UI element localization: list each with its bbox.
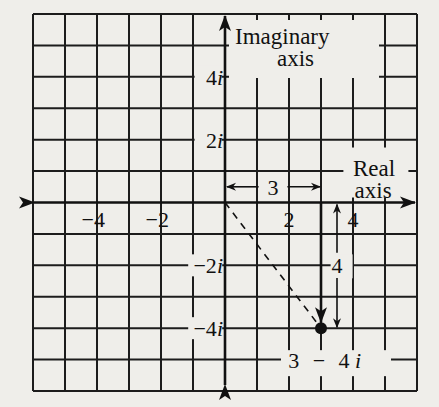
point-label-minus: − [313,348,325,373]
point-label-imag: 4 [339,348,350,373]
tick-i-suffix: i [217,316,223,341]
point-marker [315,322,327,334]
real-tick-label: 2 [284,207,295,232]
point-label: 3 − 4 i [288,348,361,373]
tick-number: 4 [206,65,217,90]
real-tick-label: 4 [348,207,359,232]
tick-i-suffix: i [217,253,223,278]
imaginary-axis-label-line2: axis [277,46,314,71]
imaginary-tick-label: 2i [206,128,223,153]
real-tick-label: −4 [82,207,105,232]
vertical-dimension-label: 4 [332,253,343,278]
dashed-vector-line [225,203,318,325]
tick-number: −2 [193,253,216,278]
imaginary-tick-label: −4i [193,316,223,341]
tick-number: 2 [206,128,217,153]
tick-number: −4 [193,316,216,341]
real-tick-label: −2 [146,207,169,232]
point-label-real: 3 [288,348,299,373]
complex-plane-diagram: Imaginary axis Real axis −4−224 4i2i−2i−… [0,0,439,407]
tick-i-suffix: i [217,128,223,153]
point-label-i: i [355,348,361,373]
real-tick-labels: −4−224 [82,207,359,232]
imaginary-tick-label: −2i [193,253,223,278]
imaginary-tick-label: 4i [206,65,223,90]
real-axis-label-line2: axis [355,178,392,203]
tick-i-suffix: i [217,65,223,90]
complex-plane-figure: Imaginary axis Real axis −4−224 4i2i−2i−… [0,0,439,407]
horizontal-dimension-label: 3 [268,175,279,200]
